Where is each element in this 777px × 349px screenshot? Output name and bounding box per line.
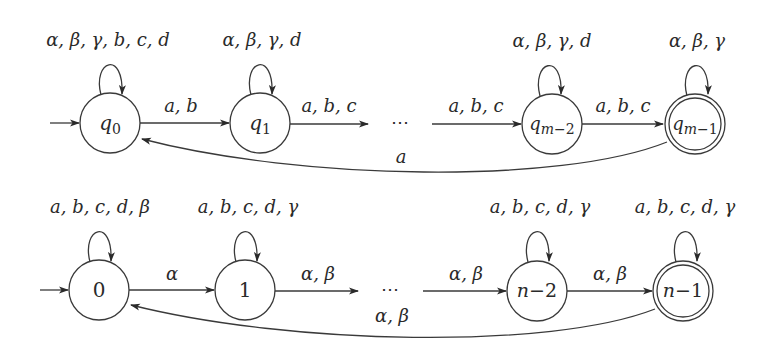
label-state-1: 1 (239, 278, 252, 302)
edge-label-ellipsis-n-2: α, β (449, 263, 483, 284)
edge-label-qm-1-q0: a (396, 146, 407, 167)
loop-qm-1 (685, 66, 708, 96)
edge-label-q1-ellipsis: a, b, c (301, 95, 356, 116)
loop-label-1: a, b, c, d, γ (198, 196, 299, 217)
label-state-n-1: n−1 (663, 279, 703, 301)
loop-label-0: a, b, c, d, β (50, 196, 150, 217)
edge-label-n-2-n-1: α, β (593, 263, 627, 284)
label-state-0: 0 (93, 278, 106, 302)
loop-q1 (249, 65, 272, 95)
loop-label-q1: α, β, γ, d (222, 29, 301, 50)
edge-label-1-ellipsis: α, β (301, 263, 335, 284)
automata-diagram: q0 q1 qm−2 qm−1 α, β, γ, b, c, d α, β, γ… (0, 0, 777, 349)
loop-0 (88, 232, 111, 262)
ellipsis-bottom: ⋯ (381, 278, 399, 299)
loop-label-qm-2: α, β, γ, d (512, 30, 591, 51)
edge-label-q0-q1: a, b (164, 95, 198, 116)
loop-label-n-1: a, b, c, d, γ (635, 196, 736, 217)
edge-label-0-1: α (166, 263, 178, 284)
automaton-top: q0 q1 qm−2 qm−1 α, β, γ, b, c, d α, β, γ… (46, 29, 725, 172)
label-state-n-2: n−2 (517, 279, 557, 301)
automaton-bottom: 0 1 n−2 n−1 a, b, c, d, β a, b, c, d, γ … (40, 196, 735, 337)
ellipsis-top: ⋯ (391, 111, 409, 132)
loop-n-2 (526, 232, 549, 262)
edge-label-ellipsis-qm-2: a, b, c (448, 95, 503, 116)
loop-label-n-2: a, b, c, d, γ (490, 196, 591, 217)
loop-label-q0: α, β, γ, b, c, d (46, 29, 170, 50)
loop-n-1 (674, 232, 697, 262)
loop-qm-2 (538, 66, 561, 96)
edge-label-n-1-0: α, β (375, 305, 409, 326)
edge-label-qm-2-qm-1: a, b, c (595, 95, 650, 116)
loop-1 (234, 232, 257, 262)
loop-q0 (99, 65, 122, 95)
loop-label-qm-1: α, β, γ (669, 30, 725, 51)
